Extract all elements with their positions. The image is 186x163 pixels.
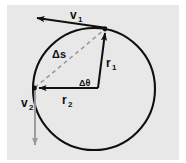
circular-motion-diagram: v 1 v 2 r 1 r 2 Δs Δθ <box>0 0 186 163</box>
r2-subscript: 2 <box>68 100 73 109</box>
v2-label: v <box>21 96 28 110</box>
point-p2-marker <box>32 86 37 91</box>
figure-root: v 1 v 2 r 1 r 2 Δs Δθ <box>0 0 186 163</box>
v1-label: v <box>70 8 77 22</box>
delta-theta-label: Δθ <box>79 78 90 88</box>
v1-subscript: 1 <box>78 15 83 24</box>
r2-label: r <box>62 93 67 107</box>
delta-s-label: Δs <box>52 48 66 60</box>
r1-subscript: 1 <box>112 63 117 72</box>
v2-subscript: 2 <box>29 103 34 112</box>
point-p1-marker <box>103 27 108 32</box>
r1-label: r <box>106 56 111 70</box>
